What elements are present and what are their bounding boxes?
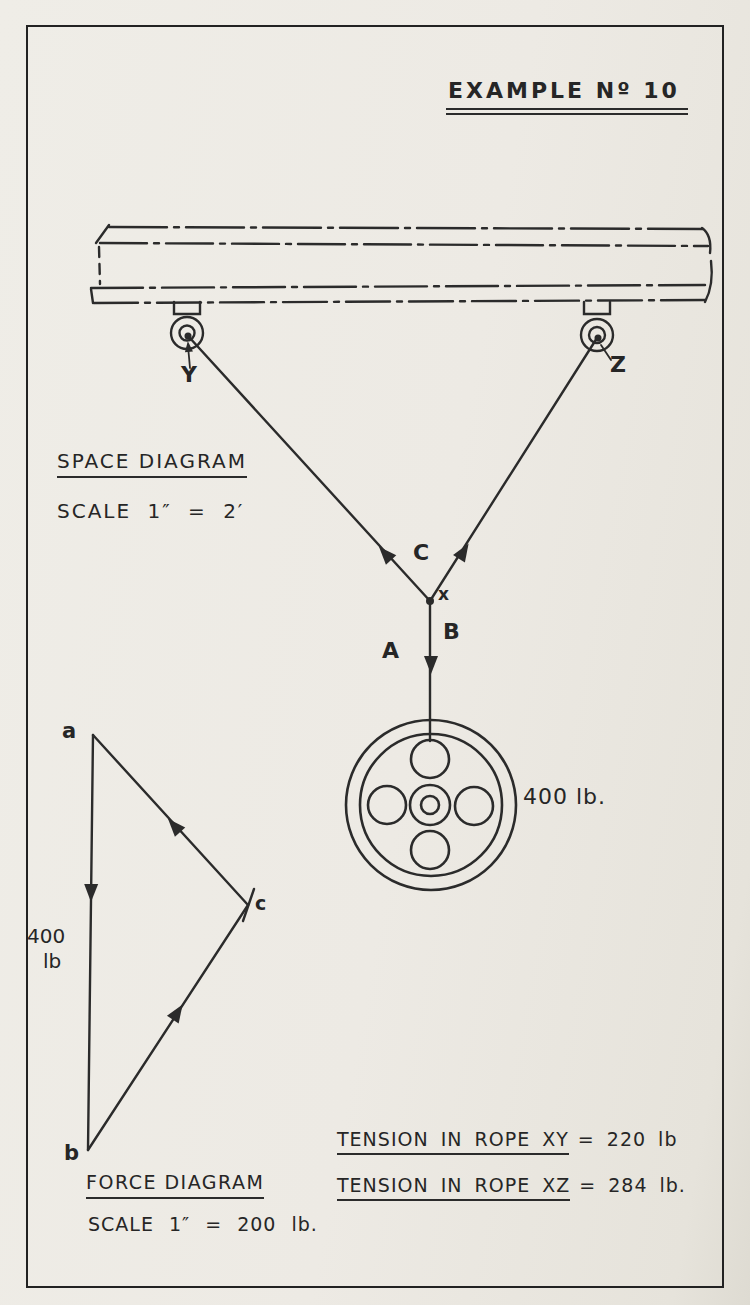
force-vertex-a: a bbox=[62, 719, 76, 743]
junction-label-x: x bbox=[438, 585, 449, 605]
arrow-ab bbox=[84, 884, 98, 902]
arrow-load-rope bbox=[424, 656, 438, 674]
force-vertex-b: b bbox=[64, 1141, 79, 1165]
force-diagram-heading: FORCE DIAGRAM bbox=[86, 1172, 264, 1199]
force-load-value: 400 bbox=[27, 925, 65, 948]
right-hook bbox=[581, 302, 613, 360]
junction-point-x bbox=[426, 597, 434, 605]
ceiling-beam bbox=[91, 225, 712, 303]
tension-xy-value: = 220 lb bbox=[578, 1128, 678, 1150]
space-label-a: A bbox=[382, 638, 399, 663]
edge-ab bbox=[88, 735, 93, 1150]
pulley-label-y: Y bbox=[181, 362, 197, 387]
tension-xy-label: TENSION IN ROPE XY bbox=[337, 1128, 569, 1155]
ropes bbox=[189, 337, 597, 741]
space-diagram-heading: SPACE DIAGRAM bbox=[57, 450, 247, 478]
pulley-block-wheel bbox=[346, 720, 516, 890]
tension-xz-label: TENSION IN ROPE XZ bbox=[337, 1174, 570, 1201]
force-diagram-scale: SCALE 1″ = 200 lb. bbox=[88, 1214, 318, 1236]
load-weight-label: 400 lb. bbox=[523, 784, 606, 809]
space-label-c: C bbox=[413, 540, 429, 565]
tension-xz-value: = 284 lb. bbox=[579, 1174, 686, 1196]
diagram-artwork bbox=[0, 0, 750, 1305]
space-diagram-scale: SCALE 1″ = 2′ bbox=[57, 500, 244, 523]
scanned-worksheet-page: EXAMPLE Nº 10 SPACE DIAGRAM SCALE 1″ = 2… bbox=[0, 0, 750, 1305]
force-vertex-c: c bbox=[255, 893, 266, 915]
space-label-b: B bbox=[443, 619, 460, 644]
tick-at-c bbox=[243, 889, 254, 921]
tension-xy-row: TENSION IN ROPE XY= 220 lb bbox=[337, 1129, 677, 1151]
force-triangle bbox=[84, 735, 254, 1150]
rope-xz bbox=[430, 338, 597, 601]
tension-xz-row: TENSION IN ROPE XZ= 284 lb. bbox=[337, 1175, 686, 1197]
edge-ca bbox=[93, 735, 248, 905]
right-hook-bracket bbox=[584, 302, 610, 314]
pulley-label-z: Z bbox=[610, 352, 626, 377]
arrow-bc bbox=[167, 1001, 189, 1024]
left-hook-bracket bbox=[174, 302, 200, 314]
example-number-title: EXAMPLE Nº 10 bbox=[446, 78, 688, 115]
edge-bc bbox=[88, 905, 248, 1150]
left-hook bbox=[171, 302, 203, 368]
force-load-unit: lb bbox=[43, 950, 61, 973]
